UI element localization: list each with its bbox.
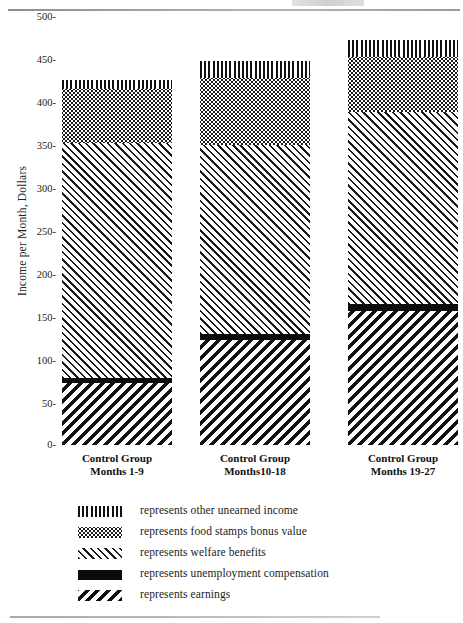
bottom-divider-rule [10,616,380,618]
y-tick-250-label: 250- [37,226,56,237]
segment-other-unearned-income [62,80,172,89]
y-tick-200: 200- [0,270,56,281]
segment-food-stamps-bonus-value [200,78,310,145]
y-tick-450: 450- [0,55,56,66]
segment-unemployment-compensation [348,304,458,311]
x-axis-label-bar-3-line1: Control Group [328,452,463,465]
segment-welfare-benefits [200,145,310,334]
legend-label-food-stamps-bonus-value: represents food stamps bonus value [140,525,307,537]
y-tick-450-label: 450- [37,54,56,65]
x-axis-label-bar-1-line1: Control Group [42,452,192,465]
chart-plot-area: Income per Month, Dollars 500- 450- 400-… [0,0,463,500]
y-tick-250: 250- [0,227,56,238]
diagonal-hatch-thick-swatch-icon [78,590,122,601]
y-tick-500: 500- [0,12,56,23]
segment-food-stamps-bonus-value [348,57,458,112]
chart-legend: represents other unearned income represe… [0,498,463,610]
vertical-stripes-swatch-icon [78,506,122,517]
segment-earnings [200,340,310,445]
y-tick-150-label: 150- [37,312,56,323]
y-tick-400: 400- [0,98,56,109]
x-axis-label-bar-2: Control Group Months10-18 [180,452,330,479]
dotted-swatch-icon [78,527,122,538]
legend-label-welfare-benefits: represents welfare benefits [140,546,266,558]
x-axis-label-bar-3-line2: Months 19-27 [328,465,463,478]
y-tick-0-label: 0- [47,439,56,450]
y-tick-350-label: 350- [37,140,56,151]
y-tick-300: 300- [0,184,56,195]
x-axis-label-bar-1-line2: Months 1-9 [42,465,192,478]
y-tick-50: 50- [0,399,56,410]
segment-other-unearned-income [200,61,310,78]
legend-label-unemployment-compensation: represents unemployment compensation [140,567,329,579]
y-tick-500-label: 500- [37,11,56,22]
y-tick-200-label: 200- [37,269,56,280]
y-tick-400-label: 400- [37,97,56,108]
legend-label-earnings: represents earnings [140,588,230,600]
y-tick-0: 0- [0,440,56,451]
segment-welfare-benefits [348,112,458,304]
solid-black-swatch-icon [78,570,122,580]
stacked-bar-control-months-1-9[interactable] [62,80,172,445]
legend-label-other-unearned-income: represents other unearned income [140,504,298,516]
x-axis-label-bar-2-line2: Months10-18 [180,465,330,478]
stacked-bar-control-months-19-27[interactable] [348,40,458,445]
segment-earnings [348,311,458,445]
y-tick-350: 350- [0,141,56,152]
x-axis-label-bar-3: Control Group Months 19-27 [328,452,463,479]
x-axis-label-bar-1: Control Group Months 1-9 [42,452,192,479]
x-axis-label-bar-2-line1: Control Group [180,452,330,465]
y-tick-150: 150- [0,313,56,324]
y-tick-100-label: 100- [37,355,56,366]
stacked-bar-control-months-10-18[interactable] [200,61,310,445]
y-tick-50-label: 50- [42,398,56,409]
segment-welfare-benefits [62,143,172,378]
y-tick-100: 100- [0,356,56,367]
segment-earnings [62,383,172,445]
y-tick-300-label: 300- [37,183,56,194]
segment-other-unearned-income [348,40,458,57]
diagonal-hatch-fine-swatch-icon [78,548,122,559]
segment-food-stamps-bonus-value [62,89,172,143]
